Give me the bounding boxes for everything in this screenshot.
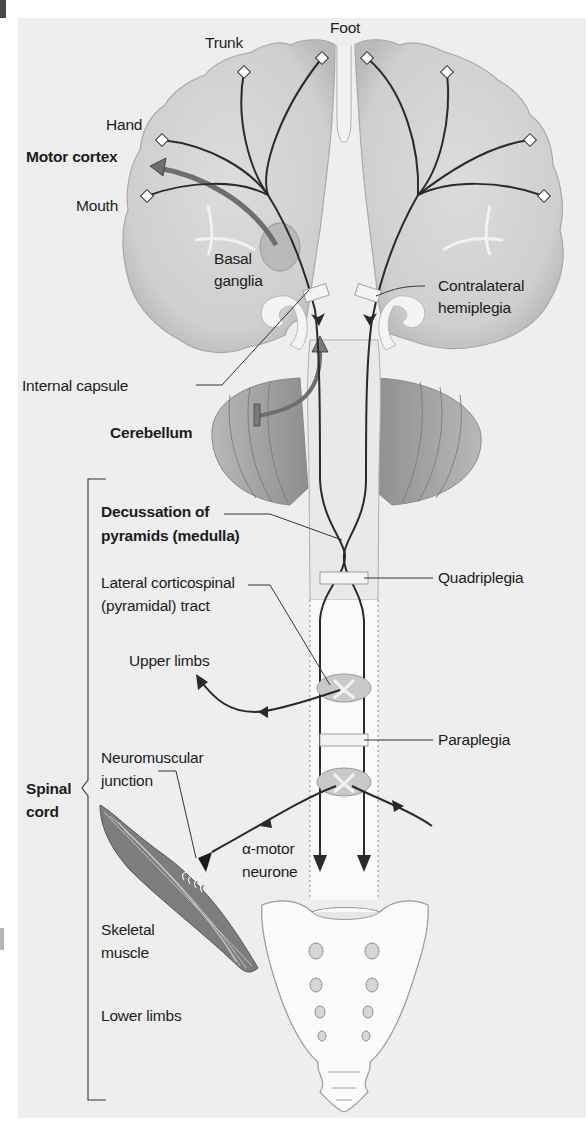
label-spinal-cord: Spinal cord (26, 777, 71, 823)
label-neuromuscular-junction: Neuromuscular junction (101, 746, 204, 792)
label-upper-limbs: Upper limbs (129, 650, 210, 671)
label-hand: Hand (106, 114, 142, 135)
label-mouth: Mouth (76, 195, 118, 216)
label-alpha-motor-neurone: α-motor neurone (242, 837, 297, 883)
label-lateral-tract: Lateral corticospinal (pyramidal) tract (101, 571, 235, 617)
label-contralateral-hemiplegia: Contralateral hemiplegia (438, 275, 524, 319)
label-foot: Foot (330, 17, 360, 38)
spinal-cross-section-cervical (317, 674, 371, 702)
label-cerebellum: Cerebellum (110, 422, 192, 443)
sacrum (262, 901, 429, 1112)
label-internal-capsule: Internal capsule (22, 375, 128, 396)
label-skeletal-muscle: Skeletal muscle (101, 918, 155, 964)
nmj-terminal (198, 852, 212, 872)
label-paraplegia: Paraplegia (438, 729, 510, 750)
label-quadriplegia: Quadriplegia (438, 567, 524, 588)
label-trunk: Trunk (205, 32, 243, 53)
label-decussation: Decussation of pyramids (medulla) (101, 500, 240, 548)
label-motor-cortex: Motor cortex (26, 146, 117, 167)
longitudinal-fissure (337, 45, 351, 143)
lesion-paraplegia (320, 734, 368, 746)
cerebellum-left (212, 378, 308, 505)
label-lower-limbs: Lower limbs (101, 1005, 182, 1026)
lesion-quadriplegia (320, 572, 368, 584)
pathway-illustration (0, 0, 588, 1130)
cerebellum-right (372, 378, 481, 505)
label-basal-ganglia: Basal ganglia (214, 248, 263, 292)
